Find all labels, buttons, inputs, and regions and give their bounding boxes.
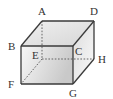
label-e: E xyxy=(32,49,39,61)
label-h: H xyxy=(98,53,106,65)
label-f: F xyxy=(8,78,14,90)
label-b: B xyxy=(8,40,15,52)
cube-diagram: A D B C E H F G xyxy=(0,0,113,99)
label-a: A xyxy=(38,5,46,17)
label-g: G xyxy=(69,87,77,99)
label-d: D xyxy=(90,5,98,17)
label-c: C xyxy=(75,45,82,57)
front-face-bcgf xyxy=(21,46,73,84)
